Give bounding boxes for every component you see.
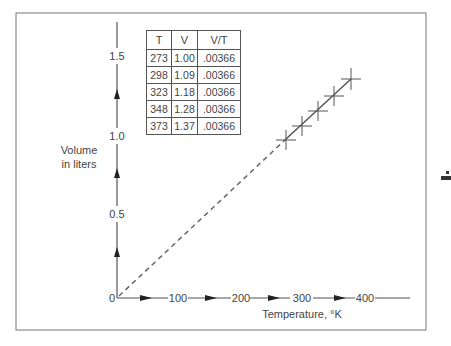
table-cell: 298 [147, 67, 172, 84]
table-cell: .00366 [198, 84, 241, 101]
table-header-v: V [172, 31, 198, 50]
extrapolation-dashed-line [119, 139, 286, 296]
table-row: 348 1.28 .00366 [147, 101, 241, 118]
plus-marker-icon [341, 68, 361, 90]
origin-label: 0 [109, 292, 115, 304]
x-tick-400: 400 [356, 292, 374, 304]
table-cell: 1.00 [172, 50, 198, 67]
table-row: 373 1.37 .00366 [147, 118, 241, 135]
table-cell: 1.28 [172, 101, 198, 118]
table-row: 273 1.00 .00366 [147, 50, 241, 67]
table-header-row: T V V/T [147, 31, 241, 50]
y-tick-1.5: 1.5 [109, 50, 124, 62]
table-cell: .00366 [198, 50, 241, 67]
table-row: 298 1.09 .00366 [147, 67, 241, 84]
table-cell: 273 [147, 50, 172, 67]
data-table: T V V/T 273 1.00 .00366 298 1.09 .00366 … [146, 30, 241, 135]
table-cell: 1.09 [172, 67, 198, 84]
y-tick-1.0: 1.0 [109, 130, 124, 142]
table-cell: 1.37 [172, 118, 198, 135]
table-cell: .00366 [198, 101, 241, 118]
table-cell: 373 [147, 118, 172, 135]
x-tick-300: 300 [293, 292, 311, 304]
x-axis-title: Temperature, °K [262, 308, 342, 320]
table-row: 323 1.18 .00366 [147, 84, 241, 101]
y-axis-title-line1: Volume [61, 144, 98, 156]
plus-marker-icon [292, 116, 312, 136]
cropped-fragment-mark [441, 171, 451, 180]
y-tick-0.5: 0.5 [109, 208, 124, 220]
table-cell: 1.18 [172, 84, 198, 101]
table-cell: .00366 [198, 67, 241, 84]
x-tick-100: 100 [169, 292, 187, 304]
table-cell: 323 [147, 84, 172, 101]
data-markers [276, 68, 361, 150]
table-header-v-over-t: V/T [198, 31, 241, 50]
table-cell: .00366 [198, 118, 241, 135]
y-axis-title-line2: in liters [62, 158, 97, 170]
table-cell: 348 [147, 101, 172, 118]
x-tick-200: 200 [232, 292, 250, 304]
table-header-t: T [147, 31, 172, 50]
